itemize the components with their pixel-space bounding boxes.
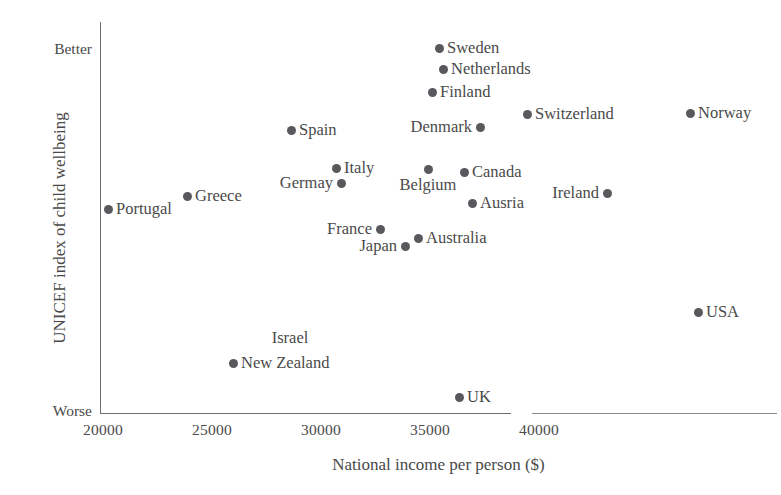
data-point-marker [424,165,433,174]
x-axis-title: National income per person ($) [100,455,777,475]
data-point-marker [287,126,296,135]
data-point-label: New Zealand [241,355,329,372]
data-point-label: Australia [426,230,486,247]
x-axis-line-right-segment [532,413,777,414]
data-point-label: Finland [440,84,490,101]
data-point-label: Denmark [411,119,472,136]
x-tick-label: 30000 [301,421,341,439]
data-point-label: Portugal [116,201,172,218]
data-point-label: Norway [698,105,751,122]
data-point-label: Belgium [400,177,457,194]
x-axis-line-left-segment [100,413,511,414]
data-point-marker [229,359,238,368]
x-tick-label: 25000 [192,421,232,439]
data-point-marker [439,65,448,74]
data-point-marker [104,205,113,214]
data-point-marker [468,199,477,208]
data-point-marker [455,393,464,402]
data-point-label: UK [467,389,491,406]
x-tick-label: 20000 [83,421,123,439]
data-point-label: Sweden [447,40,499,57]
data-point-marker [460,168,469,177]
data-point-marker [523,110,532,119]
data-point-label: Ausria [480,195,524,212]
data-point-marker [476,123,485,132]
data-point-label: Switzerland [535,106,614,123]
data-point-marker [414,234,423,243]
data-point-marker [428,88,437,97]
y-axis-title: UNICEF index of child wellbeing [50,38,70,418]
data-point-marker [694,308,703,317]
data-point-marker [337,179,346,188]
x-tick-label: 40000 [519,421,559,439]
data-point-marker [435,44,444,53]
y-axis-line [100,22,101,414]
data-point-label: Ireland [552,185,599,202]
data-point-label: Japan [359,238,397,255]
data-point-marker [183,192,192,201]
data-point-label: Greece [195,188,242,205]
data-point-label: Germay [280,175,333,192]
data-point-marker [401,242,410,251]
data-point-label: Spain [299,122,337,139]
x-tick-label: 35000 [410,421,450,439]
data-point-marker [686,109,695,118]
data-point-label: Netherlands [451,61,531,78]
data-point-label: USA [706,304,739,321]
scatter-chart: Better Worse UNICEF index of child wellb… [0,0,781,495]
data-point-marker [603,189,612,198]
data-point-marker [376,225,385,234]
data-point-marker [332,164,341,173]
data-point-label: Italy [344,160,374,177]
data-point-label: Canada [472,164,521,181]
data-point-label: Israel [272,330,309,347]
